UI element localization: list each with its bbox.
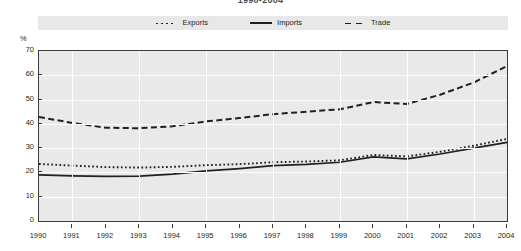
x-axis-tick-mark [305,224,306,228]
y-axis-tick-labels: 010203040506070 [8,50,34,222]
x-axis-tick-mark [473,224,474,228]
legend-label-exports: Exports [183,19,208,27]
gridline-vertical [407,51,408,221]
plot-area [38,50,508,222]
gridline-vertical [139,51,140,221]
y-axis-tick-mark [38,123,42,124]
y-axis-tick-mark [38,147,42,148]
x-axis-tick-label: 1994 [163,232,180,240]
gridline-vertical [273,51,274,221]
gridline-vertical [206,51,207,221]
y-axis-tick-label: 50 [10,95,34,103]
x-axis-tick-mark [71,224,72,228]
chart-legend: Exports Imports Trade [38,16,508,30]
y-axis-tick-mark [38,99,42,100]
gridline-vertical [340,51,341,221]
x-axis-tick-label: 1993 [130,232,147,240]
y-axis-tick-label: 0 [10,216,34,224]
y-axis-unit-label: % [20,35,27,43]
x-axis-tick-label: 2001 [397,232,414,240]
x-axis-tick-label: 2004 [498,232,515,240]
x-axis-tick-mark [406,224,407,228]
x-axis-tick-label: 1996 [230,232,247,240]
x-axis-tick-label: 1997 [264,232,281,240]
x-axis-tick-label: 1995 [197,232,214,240]
y-axis-tick-mark [38,74,42,75]
y-axis-tick-mark [38,171,42,172]
x-axis-tick-mark [372,224,373,228]
y-axis-tick-label: 10 [10,192,34,200]
x-axis-tick-mark [205,224,206,228]
y-axis-tick-label: 20 [10,168,34,176]
x-axis-tick-label: 2003 [464,232,481,240]
chart-title: 1990-2004 [0,0,521,4]
y-axis-tick-mark [38,196,42,197]
legend-item-exports[interactable]: Exports [156,19,208,27]
x-axis-tick-label: 1991 [63,232,80,240]
legend-label-trade: Trade [371,19,390,27]
x-axis-tick-mark [172,224,173,228]
legend-label-imports: Imports [277,19,302,27]
x-axis-tick-label: 2002 [431,232,448,240]
solid-line-swatch-icon [250,20,272,27]
y-axis-tick-label: 60 [10,71,34,79]
dashed-line-swatch-icon [344,20,366,27]
x-axis-tick-mark [272,224,273,228]
x-axis-tick-mark [105,224,106,228]
x-axis-tick-mark [138,224,139,228]
chart-container: 1990-2004 Exports Imports Trade % 010203… [0,0,521,251]
gridline-vertical [474,51,475,221]
x-axis-tick-labels: 1990199119921993199419951996199719981999… [38,224,508,248]
y-axis-tick-label: 40 [10,119,34,127]
x-axis-tick-label: 2000 [364,232,381,240]
x-axis-tick-mark [506,224,507,228]
x-axis-tick-label: 1999 [331,232,348,240]
gridline-vertical [72,51,73,221]
dotted-line-swatch-icon [156,20,178,27]
y-axis-tick-label: 70 [10,46,34,54]
x-axis-tick-mark [239,224,240,228]
x-axis-tick-mark [339,224,340,228]
legend-item-trade[interactable]: Trade [344,19,390,27]
x-axis-tick-label: 1990 [30,232,47,240]
y-axis-tick-label: 30 [10,143,34,151]
legend-item-imports[interactable]: Imports [250,19,302,27]
x-axis-tick-label: 1998 [297,232,314,240]
x-axis-tick-mark [439,224,440,228]
x-axis-tick-label: 1992 [97,232,114,240]
